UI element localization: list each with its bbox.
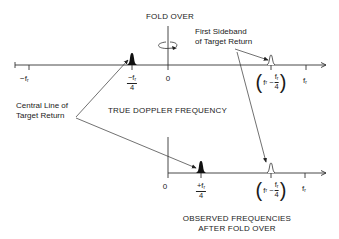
tick-label-neg-fr: −fr — [20, 74, 29, 85]
central-line-label-line2: Target Return — [16, 111, 64, 120]
tick-label-zero-top: 0 — [166, 74, 170, 83]
tick-label-fr-top: fr — [303, 76, 307, 87]
tick-label-neg-fr4: −fr 4 — [127, 74, 137, 92]
sideband-peak-bottom — [267, 163, 275, 173]
sideband-peak-top — [267, 55, 275, 65]
sideband-pointer-bottom — [237, 52, 266, 162]
first-sideband-label-line2: of Target Return — [195, 37, 252, 46]
tick-label-pos-fr4: +fr 4 — [196, 182, 206, 200]
top-frequency-axis — [15, 62, 326, 70]
tick-label-zero-bottom: 0 — [163, 182, 167, 191]
top-axis-caption: TRUE DOPPLER FREQUENCY — [108, 106, 227, 115]
bottom-axis-caption-line1: OBSERVED FREQUENCIES — [183, 214, 291, 223]
fold-over-label: FOLD OVER — [146, 12, 194, 21]
first-sideband-label-line1: First Sideband — [195, 27, 247, 36]
fold-over-axis — [159, 26, 178, 70]
bottom-frequency-axis — [168, 137, 326, 178]
central-line-peak-bottom — [196, 161, 206, 173]
central-pointer-bottom — [76, 118, 196, 168]
central-line-peak-top — [127, 53, 137, 65]
bottom-axis-caption-line2: AFTER FOLD OVER — [198, 224, 276, 233]
central-line-label-line1: Central Line of — [16, 101, 68, 110]
tick-label-sideband-bottom: ( fr − fr4 ) — [256, 180, 287, 200]
tick-label-sideband-top: ( fr − fr4 ) — [256, 72, 287, 92]
sideband-pointer-top — [235, 49, 268, 60]
tick-label-fr-bottom: fr — [302, 184, 306, 195]
